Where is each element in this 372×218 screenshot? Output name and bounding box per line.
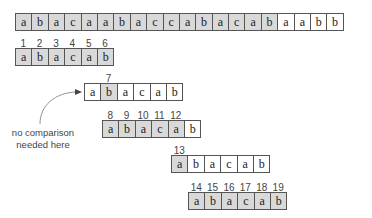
curved-arrow-icon (0, 0, 372, 218)
annotation-line-1: no comparison (5, 127, 81, 139)
annotation-note: no comparison needed here (5, 127, 81, 151)
annotation-line-2: needed here (5, 139, 81, 151)
